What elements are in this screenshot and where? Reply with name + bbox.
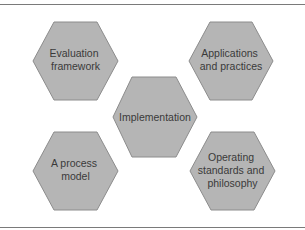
label-line: philosophy xyxy=(207,177,258,189)
hex-label: Evaluation framework xyxy=(50,47,102,72)
hex-operating-standards: Operating standards and philosophy xyxy=(190,132,275,210)
label-line: and practices xyxy=(200,60,262,72)
label-line: Evaluation xyxy=(50,47,99,59)
label-line: A process xyxy=(51,157,97,169)
hex-label: Implementation xyxy=(119,111,191,123)
label-line: Operating xyxy=(208,151,254,163)
label-line: Implementation xyxy=(119,111,191,123)
label-line: Applications xyxy=(201,47,258,59)
hex-a-process-model: A process model xyxy=(33,132,118,210)
hex-implementation: Implementation xyxy=(113,77,197,157)
hex-label: Applications and practices xyxy=(200,47,262,72)
label-line: framework xyxy=(51,60,101,72)
hexagon-diagram: Evaluation framework Applications and pr… xyxy=(0,0,305,230)
hex-evaluation-framework: Evaluation framework xyxy=(33,22,118,100)
hex-label: Operating standards and philosophy xyxy=(198,151,267,189)
label-line: model xyxy=(61,170,90,182)
label-line: standards and xyxy=(198,164,265,176)
hex-applications-and-practices: Applications and practices xyxy=(189,22,273,100)
